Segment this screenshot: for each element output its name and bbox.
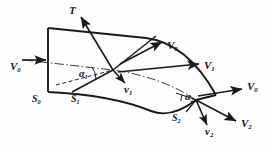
vector-force-T	[81, 17, 113, 70]
alpha2-arc	[181, 95, 182, 101]
vector-mid-V1	[118, 64, 199, 72]
label-mid-velocity-V0: V0	[167, 40, 178, 53]
vector-outlet-V0	[198, 89, 242, 96]
label-section-S2: S2	[172, 113, 181, 124]
label-force-T: T	[69, 5, 76, 16]
label-inlet-velocity-V0: V0	[10, 61, 21, 74]
label-outlet-velocity-V2: V2	[241, 118, 252, 131]
label-section-S1: S1	[71, 94, 80, 105]
label-section-S0: S0	[32, 94, 41, 105]
label-relative-velocity-v1: v1	[124, 84, 132, 97]
diagram-svg	[0, 0, 271, 148]
label-relative-velocity-v2: v2	[205, 126, 213, 139]
label-angle-alpha2: α2	[185, 92, 194, 103]
alpha1-arc	[92, 67, 96, 79]
label-outlet-velocity-V0: V0	[247, 81, 258, 94]
vector-outlet-V2	[196, 100, 236, 121]
label-mid-velocity-V1: V1	[204, 60, 215, 73]
label-angle-alpha1: α1	[79, 69, 88, 80]
chord-line-upper	[113, 36, 156, 70]
vector-mid-V0	[120, 42, 162, 64]
figure-canvas: T V0 V0 V1 V0 V2 v1 v2 S0 S1 S2 α1 α2	[0, 0, 271, 148]
